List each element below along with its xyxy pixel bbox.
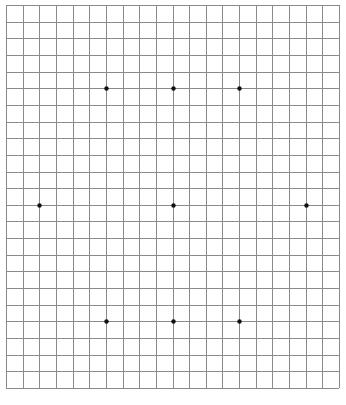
grid-dot	[171, 319, 175, 323]
grid-dot	[237, 86, 241, 90]
grid-lines	[6, 5, 340, 389]
grid-dot	[304, 203, 308, 207]
dot-grid-diagram	[0, 0, 346, 405]
grid-dot	[171, 86, 175, 90]
grid-dot	[237, 319, 241, 323]
grid-dot	[37, 203, 41, 207]
grid-dot	[104, 86, 108, 90]
grid-dot	[171, 203, 175, 207]
grid-dot	[104, 319, 108, 323]
